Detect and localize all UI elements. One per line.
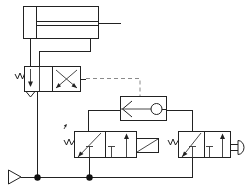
supply-rail (9, 92, 193, 184)
air-supply-source-icon (9, 170, 22, 184)
circuit-canvas (0, 0, 249, 189)
valve-shuttle-ball (151, 104, 162, 115)
valve-main-exhaust-icon (26, 92, 35, 98)
double-acting-cylinder (24, 7, 121, 39)
valve-main-cross-arrowhead-2 (56, 83, 61, 88)
valve-right-box-b (205, 132, 231, 158)
valve-shuttle-or[interactable] (121, 97, 167, 121)
valve-right-spring-icon (168, 139, 179, 145)
valve-left-flow-arrowhead (124, 134, 129, 140)
valve-3-2-push-button[interactable] (168, 132, 244, 158)
valve-right-flow-arrowhead (220, 134, 225, 140)
valve-right-diagonal-arrowhead (182, 152, 188, 158)
pilot-line-shuttle-to-main-valve (86, 79, 140, 97)
valve-left-box-b (106, 132, 137, 158)
cylinder-barrel (24, 7, 99, 39)
valve-main-spring-icon (15, 73, 25, 79)
junction-node-left-valve (86, 174, 92, 180)
line-shuttle-to-right-valve (167, 111, 193, 132)
roller-lever-trip-marker (64, 124, 67, 129)
valve-4-2-directional-main[interactable] (15, 67, 86, 98)
valve-right-push-button-cap (238, 141, 244, 155)
cylinder-port-lines (31, 39, 91, 67)
line-cylinder-front-port (40, 39, 91, 67)
valve-main-box-left (25, 67, 53, 92)
line-left-valve-to-shuttle (89, 111, 121, 132)
valve-left-spring-icon (64, 139, 75, 145)
pneumatic-circuit-diagram (0, 0, 249, 189)
valve-3-2-roller-lever[interactable] (64, 124, 159, 158)
valve-main-arrowhead-a (28, 82, 33, 88)
junction-node-supply (34, 174, 40, 180)
valve-left-roller-actuator-diagonal (137, 139, 158, 152)
